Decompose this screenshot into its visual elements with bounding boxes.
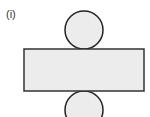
cylinder-net-diagram xyxy=(0,0,150,117)
bottom-circle xyxy=(65,91,103,117)
lateral-rectangle xyxy=(24,49,144,91)
top-circle xyxy=(65,11,103,49)
